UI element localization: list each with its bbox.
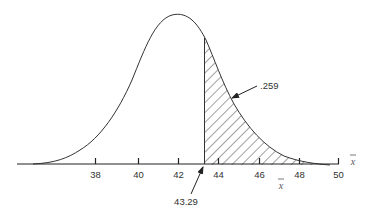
area-value-label: .259	[260, 80, 279, 91]
tick-label-48: 48	[294, 169, 305, 180]
tick-label-40: 40	[133, 169, 144, 180]
tick-label-38: 38	[90, 169, 101, 180]
svg-text:x: x	[278, 180, 284, 191]
x-bar-label-below: x	[278, 179, 284, 191]
tick-label-46: 46	[254, 169, 265, 180]
cutoff-value-label: 43.29	[174, 196, 198, 207]
x-bar-label-right: x	[350, 155, 356, 167]
x-axis-tick-labels: 38 40 42 44 46 48 50	[90, 169, 344, 180]
tick-label-50: 50	[333, 169, 344, 180]
tick-label-44: 44	[213, 169, 224, 180]
density-curve	[33, 14, 330, 165]
area-arrow	[232, 86, 257, 98]
sampling-distribution-chart: 38 40 42 44 46 48 50 x x .259 43.29	[0, 0, 378, 218]
tick-label-42: 42	[173, 169, 184, 180]
svg-text:x: x	[350, 156, 356, 167]
cutoff-arrow	[191, 167, 203, 194]
shaded-tail-area	[33, 14, 330, 165]
